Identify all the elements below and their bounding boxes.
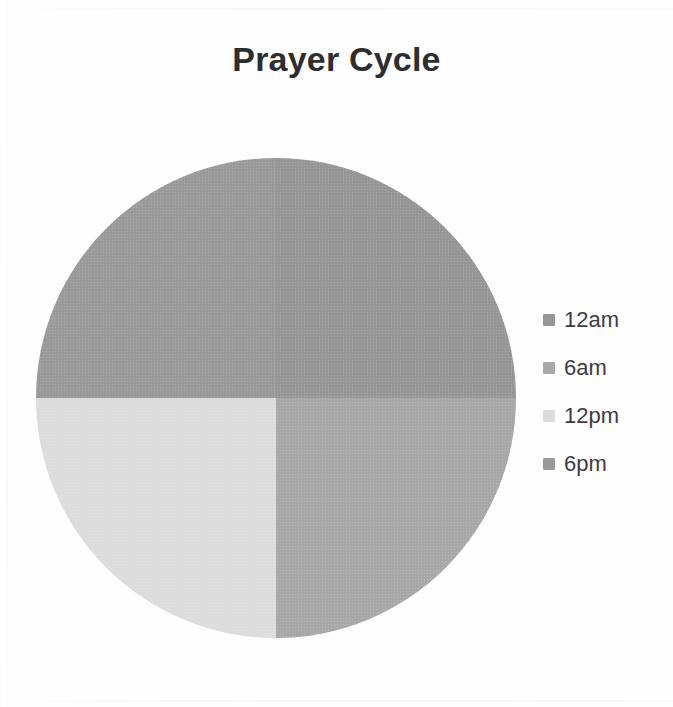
page-title: Prayer Cycle <box>0 40 673 79</box>
pie-chart-svg <box>36 158 516 638</box>
legend-item[interactable]: 12am <box>543 296 663 344</box>
pie-slice[interactable] <box>36 398 276 638</box>
legend-color-swatch <box>543 362 555 374</box>
chart-page: Prayer Cycle 12am6am12pm6pm <box>0 0 673 707</box>
scan-artifact-left <box>6 0 8 707</box>
chart-legend: 12am6am12pm6pm <box>543 296 663 488</box>
legend-color-swatch <box>543 458 555 470</box>
legend-item[interactable]: 6pm <box>543 440 663 488</box>
pie-slice[interactable] <box>36 158 276 398</box>
pie-slice[interactable] <box>276 158 516 398</box>
legend-item[interactable]: 12pm <box>543 392 663 440</box>
legend-color-swatch <box>543 410 555 422</box>
legend-item[interactable]: 6am <box>543 344 663 392</box>
legend-color-swatch <box>543 314 555 326</box>
pie-slice[interactable] <box>276 398 516 638</box>
legend-item-label: 6am <box>564 357 607 379</box>
legend-item-label: 12pm <box>564 405 619 427</box>
scan-artifact-top <box>0 8 673 10</box>
pie-chart <box>36 158 516 638</box>
legend-item-label: 12am <box>564 309 619 331</box>
scan-artifact-bottom <box>0 700 673 702</box>
legend-item-label: 6pm <box>564 453 607 475</box>
